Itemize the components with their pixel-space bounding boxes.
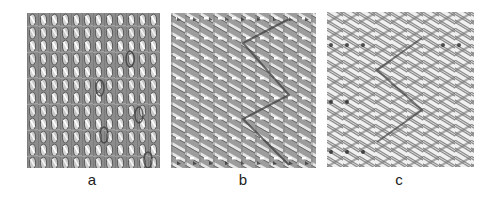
panel-a-label: a [82, 172, 102, 188]
panel-b-label: b [233, 172, 253, 188]
panel-c-image [327, 12, 474, 167]
panel-b-image [171, 13, 316, 168]
fabric-loops-texture [27, 13, 160, 168]
panel-a-image [27, 13, 160, 168]
panel-c-label: c [389, 172, 409, 188]
fabric-chevron-dense-texture [171, 13, 316, 168]
fabric-chevron-open-texture [327, 12, 474, 167]
